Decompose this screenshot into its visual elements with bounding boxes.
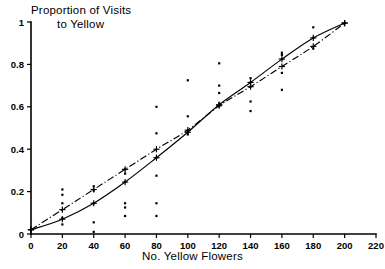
data-point [61, 188, 63, 190]
data-point [218, 103, 220, 105]
data-point [155, 175, 157, 177]
data-point [124, 172, 126, 174]
data-point [61, 202, 63, 204]
data-point [124, 215, 126, 217]
data-point [218, 85, 220, 87]
data-point [249, 100, 251, 102]
y-tick-label: 0 [19, 229, 24, 240]
data-point [93, 202, 95, 204]
data-point [155, 132, 157, 134]
x-axis-label: No. Yellow Flowers [0, 250, 385, 262]
data-point [124, 168, 126, 170]
y-tick-label: 0.6 [11, 101, 24, 112]
data-point [187, 130, 189, 132]
data-point [312, 37, 314, 39]
data-point [155, 202, 157, 204]
data-point [249, 86, 251, 88]
data-point [187, 79, 189, 81]
fitted-curves [31, 23, 345, 230]
data-point [61, 194, 63, 196]
curve-solid-curve [31, 23, 345, 230]
axes [31, 22, 376, 234]
data-point [312, 47, 314, 49]
data-point [155, 215, 157, 217]
data-point [124, 202, 126, 204]
data-point [93, 189, 95, 191]
data-point [281, 89, 283, 91]
data-point [187, 115, 189, 117]
data-point [344, 22, 346, 24]
data-point [93, 185, 95, 187]
data-point [30, 229, 32, 231]
y-tick-label: 0.4 [11, 144, 25, 155]
data-point [61, 223, 63, 225]
data-point [93, 221, 95, 223]
chart-page: Proportion of Visits to Yellow 020406080… [0, 0, 385, 269]
data-point [187, 133, 189, 135]
data-point [124, 206, 126, 208]
y-axis-tick-labels: 00.20.40.60.81 [11, 17, 25, 240]
data-point [281, 72, 283, 74]
y-tick-label: 0.8 [11, 59, 24, 70]
data-point [61, 217, 63, 219]
y-tick-label: 0.2 [11, 186, 24, 197]
y-tick-label: 1 [19, 17, 25, 28]
data-point [218, 105, 220, 107]
data-point [249, 77, 251, 79]
curve-dash-dot-curve [31, 23, 345, 230]
data-point [281, 58, 283, 60]
data-point [218, 92, 220, 94]
scatter-plot: 020406080100120140160180200220 00.20.40.… [0, 0, 385, 269]
data-point [155, 157, 157, 159]
data-point [93, 231, 95, 233]
data-point [218, 62, 220, 64]
data-point [281, 52, 283, 54]
data-point [155, 106, 157, 108]
data-point [124, 181, 126, 183]
data-point [249, 81, 251, 83]
data-point [312, 26, 314, 28]
data-point [281, 54, 283, 56]
data-point [249, 110, 251, 112]
